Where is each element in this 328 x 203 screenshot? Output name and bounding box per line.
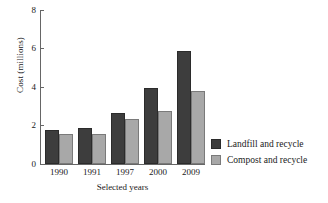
legend-swatch-icon-compost [211, 155, 221, 165]
y-axis-title: Cost (millions) [15, 5, 25, 125]
bar-compost-2000 [158, 111, 172, 164]
y-axis-tick [40, 10, 44, 11]
bar-chart: Cost (millions) 8 6 4 2 0 1990 1991 1997… [0, 0, 328, 203]
y-axis-tick-label: 4 [16, 83, 36, 92]
bar-landfill-1990 [45, 130, 59, 164]
bar-compost-2009 [191, 91, 205, 164]
bar-landfill-2000 [144, 88, 158, 164]
bar-compost-1991 [92, 134, 106, 164]
legend-item-landfill: Landfill and recycle [211, 136, 307, 152]
bar-landfill-1991 [78, 128, 92, 164]
y-axis-tick-label: 8 [16, 6, 36, 15]
x-axis-tick-label-2009: 2009 [174, 167, 208, 178]
y-axis-tick-label: 2 [16, 121, 36, 130]
y-axis-tick [40, 125, 44, 126]
x-axis-tick-label-1997: 1997 [108, 167, 142, 178]
bar-landfill-1997 [111, 113, 125, 164]
legend-swatch-icon-landfill [211, 139, 221, 149]
x-axis-title: Selected years [40, 182, 205, 192]
y-axis-tick-label: 0 [16, 160, 36, 169]
x-axis-tick-label-1991: 1991 [75, 167, 109, 178]
bar-compost-1990 [59, 134, 73, 164]
legend-label-landfill: Landfill and recycle [227, 139, 304, 150]
x-axis-tick-label-1990: 1990 [42, 167, 76, 178]
legend-label-compost: Compost and recycle [227, 155, 307, 166]
bar-compost-1997 [125, 119, 139, 164]
chart-legend: Landfill and recycle Compost and recycle [211, 136, 307, 168]
y-axis-tick [40, 48, 44, 49]
y-axis-tick [40, 87, 44, 88]
legend-item-compost: Compost and recycle [211, 152, 307, 168]
x-axis-tick-label-2000: 2000 [141, 167, 175, 178]
x-axis-line [40, 164, 205, 165]
bar-landfill-2009 [177, 51, 191, 164]
y-axis-tick-label: 6 [16, 44, 36, 53]
